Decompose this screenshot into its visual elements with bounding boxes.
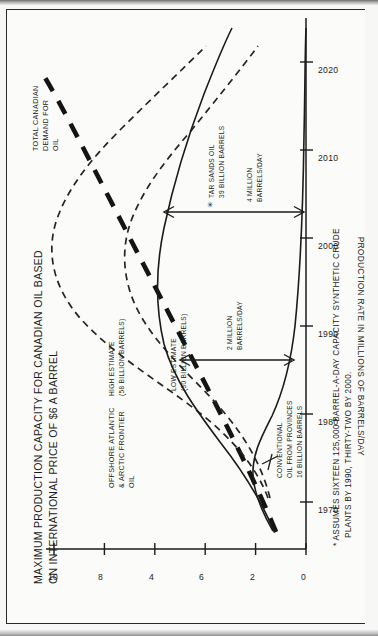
annotation-gap-2-million-line-2: BARRELS/DAY	[236, 301, 244, 350]
x-tick-label-1990: 1990	[318, 330, 338, 340]
annotation-low-estimate-line-2: (30 BILLION BARRELS)	[180, 314, 188, 391]
annotation-gap-4-million-line-2: BARRELS/DAY	[256, 153, 264, 202]
annotation-conventional-line-1: CONVENTIONAL	[276, 422, 284, 478]
annotation-high-estimate-line-1: HIGH ESTIMATE	[108, 341, 116, 396]
scan-edge-bottom	[0, 630, 378, 636]
annotation-offshore-line-2: & ARCTIC FRONTIER	[118, 411, 126, 488]
y-tick-label-2: 2	[250, 573, 255, 583]
curve-tar-sands-oil	[158, 28, 274, 531]
annotation-total-demand-line-3: OIL	[52, 139, 60, 152]
gap-arrow-4-million	[164, 207, 304, 218]
y-tick-label-0: 0	[301, 573, 306, 583]
x-tick-label-2010: 2010	[318, 154, 338, 164]
annotation-high-estimate-line-2: (58 BILLION BARRELS)	[118, 319, 126, 396]
annotation-tar-sands-line-1: TAR SANDS OIL	[208, 144, 216, 198]
annotation-tar-sands-line-2: 39 BILLION BARRELS	[218, 126, 226, 198]
curve-high-estimate	[52, 46, 268, 498]
figure-footnote-line-1: * ASSUMES SIXTEEN 125,000 BARREL-A-DAY C…	[332, 228, 342, 546]
x-tick-label-1970: 1970	[318, 506, 338, 516]
figure-title-line-1: MAXIMUM PRODUCTION CAPACITY FOR CANADIAN…	[32, 250, 44, 584]
chart-ink	[10, 0, 368, 606]
figure-footnote-line-2: PLANTS BY 1990, THIRTY-TWO BY 2000.	[344, 371, 354, 538]
annotation-gap-2-million-line-1: 2 MILLION	[226, 315, 234, 350]
y-axis-label: PRODUCTION RATE IN MILLIONS OF BARRELS/D…	[355, 237, 365, 456]
chart-plane: MAXIMUM PRODUCTION CAPACITY FOR CANADIAN…	[10, 0, 368, 606]
annotation-low-estimate-line-1: LOW ESTIMATE	[170, 338, 178, 391]
y-tick-label-6: 6	[199, 573, 204, 583]
annotation-offshore-line-3: OIL	[128, 476, 136, 489]
y-tick-label-4: 4	[149, 573, 154, 583]
annotation-conventional-line-3: 16 BILLION BARRELS	[296, 406, 304, 478]
y-tick-label-8: 8	[98, 573, 103, 583]
annotation-gap-4-million-line-1: 4 MILLION	[246, 167, 254, 202]
y-tick-label-10: 10	[48, 573, 58, 583]
annotation-conventional-line-2: OIL FROM PROVINCES	[286, 400, 294, 478]
x-tick-label-1980: 1980	[318, 418, 338, 428]
x-tick-label-2020: 2020	[318, 66, 338, 76]
annotation-offshore-line-1: OFFSHORE ATLANTIC	[108, 407, 116, 488]
figure-title-line-2: ON INTERNATIONAL PRICE OF $6 A BARREL	[47, 351, 59, 584]
leader-conventional-cross	[268, 454, 272, 470]
annotation-total-demand-line-2: DEMAND FOR	[42, 100, 50, 151]
asterisk-icon: ✳	[206, 201, 215, 208]
x-tick-label-2000: 2000	[318, 242, 338, 252]
figure-page: MAXIMUM PRODUCTION CAPACITY FOR CANADIAN…	[0, 0, 378, 636]
annotation-total-demand-line-1: TOTAL CANADIAN	[32, 85, 40, 151]
